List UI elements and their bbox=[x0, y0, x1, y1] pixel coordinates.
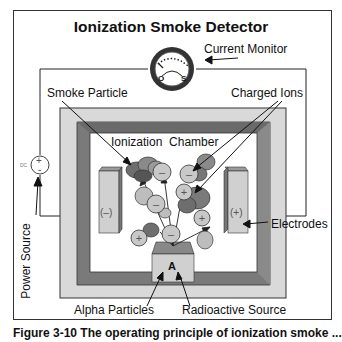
label-power-source: Power Source bbox=[19, 223, 33, 298]
figure-caption: Figure 3-10 The operating principle of i… bbox=[13, 326, 342, 340]
svg-text:–: – bbox=[159, 166, 166, 178]
label-alpha-particles: Alpha Particles bbox=[74, 303, 154, 317]
smoke-detector-diagram: – – + – + – + bbox=[0, 0, 342, 342]
label-ionization-chamber: Ionization Chamber bbox=[111, 135, 218, 149]
meter-zero: O bbox=[158, 74, 164, 83]
svg-text:–: – bbox=[168, 228, 175, 240]
label-current-monitor: Current Monitor bbox=[204, 42, 287, 56]
power-minus: - bbox=[38, 164, 41, 175]
meter-scale: S bbox=[181, 74, 186, 83]
negative-electrode bbox=[99, 167, 122, 233]
label-radioactive-source: Radioactive Source bbox=[182, 303, 286, 317]
negative-electrode-sign: (–) bbox=[100, 207, 112, 218]
label-electrodes: Electrodes bbox=[271, 217, 328, 231]
svg-text:–: – bbox=[186, 168, 193, 180]
label-charged-ions: Charged Ions bbox=[231, 86, 303, 100]
svg-text:+: + bbox=[136, 232, 142, 244]
power-dc-label: DC bbox=[20, 162, 27, 168]
svg-text:+: + bbox=[199, 212, 205, 224]
svg-text:–: – bbox=[153, 198, 160, 210]
positive-electrode-sign: (+) bbox=[230, 207, 243, 218]
source-symbol: A bbox=[168, 260, 176, 272]
label-smoke-particle: Smoke Particle bbox=[47, 86, 128, 100]
current-monitor-icon bbox=[150, 47, 194, 91]
svg-text:+: + bbox=[181, 186, 187, 198]
